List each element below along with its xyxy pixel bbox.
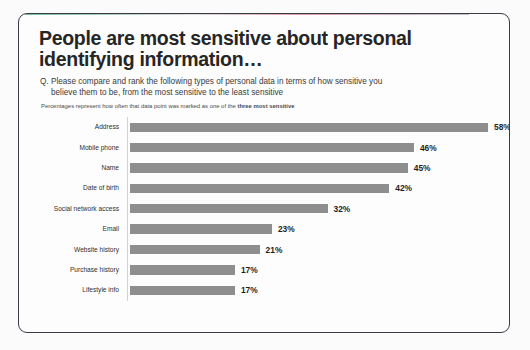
chart-row: Purchase history17%: [39, 260, 501, 280]
bar: [130, 123, 488, 132]
bar-track: 32%: [127, 199, 501, 219]
bar: [130, 245, 260, 254]
horizontal-bar-chart: Address58%Mobile phone46%Name45%Date of …: [39, 117, 501, 324]
chart-row: Name45%: [39, 158, 501, 178]
bar-track: 58%: [127, 117, 510, 137]
slide-card: People are most sensitive about personal…: [18, 13, 510, 333]
bar: [130, 143, 414, 152]
category-label: Lifestyle info: [39, 286, 127, 294]
bar-value-label: 58%: [494, 122, 510, 132]
chart-row: Mobile phone46%: [39, 137, 501, 157]
category-label: Social network access: [39, 205, 127, 213]
bar-value-label: 21%: [266, 245, 283, 255]
category-label: Date of birth: [39, 184, 127, 192]
chart-row: Website history21%: [39, 239, 501, 259]
chart-footnote: Percentages represent how often that dat…: [41, 102, 461, 110]
bar-track: 17%: [127, 260, 501, 280]
bar: [130, 163, 408, 172]
chart-row: Date of birth42%: [39, 178, 501, 198]
bar-value-label: 23%: [278, 224, 295, 234]
survey-question: Q. Please compare and rank the following…: [40, 76, 452, 99]
bar-value-label: 45%: [414, 163, 431, 173]
bar-track: 17%: [127, 280, 501, 300]
survey-question-line-1: Q. Please compare and rank the following…: [40, 77, 382, 86]
chart-footnote-emphasis: three most sensitive: [237, 103, 294, 109]
bar-value-label: 32%: [334, 204, 351, 214]
category-label: Name: [39, 164, 127, 172]
category-label: Email: [39, 225, 127, 233]
category-label: Mobile phone: [39, 144, 127, 152]
category-label: Purchase history: [39, 266, 127, 274]
chart-row: Lifestyle info17%: [39, 280, 501, 300]
bar-value-label: 17%: [241, 285, 258, 295]
survey-question-line-2: believe them to be, from the most sensit…: [40, 87, 452, 98]
bar: [130, 204, 328, 213]
chart-row: Email23%: [39, 219, 501, 239]
bar: [130, 184, 389, 193]
bar-track: 46%: [127, 137, 501, 157]
chart-row: Address58%: [39, 117, 501, 137]
page-title: People are most sensitive about personal…: [39, 28, 439, 70]
bar: [130, 224, 272, 233]
bar: [130, 265, 235, 274]
bar-value-label: 17%: [241, 265, 258, 275]
bar-track: 42%: [127, 178, 501, 198]
bar-value-label: 46%: [420, 143, 437, 153]
bar-track: 23%: [127, 219, 501, 239]
bar-track: 45%: [127, 158, 501, 178]
category-label: Address: [39, 123, 127, 131]
bar-track: 21%: [127, 239, 501, 259]
bar: [130, 286, 235, 295]
bar-value-label: 42%: [395, 183, 412, 193]
chart-row: Social network access32%: [39, 199, 501, 219]
chart-footnote-text: Percentages represent how often that dat…: [41, 103, 237, 109]
category-label: Website history: [39, 246, 127, 254]
